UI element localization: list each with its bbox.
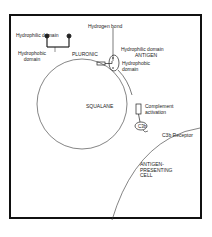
antigen-label: ANTIGEN — [135, 53, 157, 59]
legend-hydrophobic: Hydrophobic domain — [17, 51, 47, 62]
apc-label: ANTIGEN-PRESENTING CELL — [140, 162, 174, 179]
squalane-droplet — [37, 59, 127, 149]
pluronic-anchor-icon — [97, 61, 112, 65]
c3b-label: C3b — [138, 124, 146, 130]
complement-activation-label: Complement activation — [145, 104, 179, 115]
pluronic-label: PLURONIC — [72, 52, 98, 58]
c3b-receptor-label: C3b Receptor — [162, 133, 193, 139]
squalane-label: SQUALANE — [86, 104, 113, 110]
hydrogen-bond-label: Hydrogen bond — [88, 24, 122, 30]
complement-activation-icon — [136, 104, 141, 122]
antigen-icon — [109, 55, 119, 71]
legend-hydrophilic: Hydrophilic domain — [16, 33, 59, 39]
hydrophobic-domain-label: Hydrophobic domain — [122, 61, 154, 72]
